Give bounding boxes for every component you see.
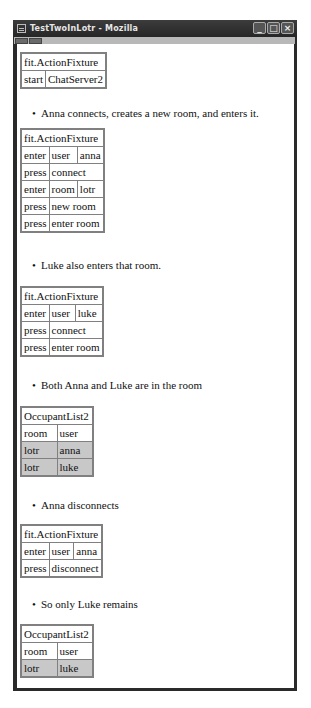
- fixture-header: fit.ActionFixture: [21, 53, 106, 71]
- table-cell: enter: [21, 543, 49, 560]
- table-cell: enter: [21, 147, 49, 164]
- table-cell: start: [21, 71, 45, 89]
- result-cell: lotr: [21, 660, 57, 678]
- fixture-table-anna-disconnects: fit.ActionFixture enter user anna press …: [20, 524, 103, 578]
- table-cell: user: [49, 147, 77, 164]
- table-cell: press: [21, 215, 49, 233]
- fixture-table-luke-enters: fit.ActionFixture enter user luke press …: [20, 286, 104, 357]
- result-cell: luke: [57, 459, 93, 477]
- table-cell: press: [21, 560, 49, 578]
- bullet-text: Both Anna and Luke are in the room: [17, 378, 202, 392]
- result-cell: lotr: [21, 459, 57, 477]
- fixture-header: OccupantList2: [21, 625, 93, 643]
- bullet-text: Luke also enters that room.: [17, 258, 161, 272]
- fixture-header: OccupantList2: [21, 407, 93, 425]
- table-cell: user: [49, 305, 75, 322]
- table-cell: lotr: [77, 181, 103, 198]
- bullet-text: Anna disconnects: [17, 498, 119, 512]
- result-cell: lotr: [21, 442, 57, 459]
- table-cell: connect: [49, 164, 104, 181]
- toolbar-button-2[interactable]: [29, 38, 42, 44]
- title-bar[interactable]: TestTwoInLotr - Mozilla _ □ ×: [13, 20, 297, 37]
- occupant-list-table-luke-only: OccupantList2 room user lotr luke: [20, 624, 94, 678]
- table-cell: enter room: [49, 215, 104, 233]
- minimize-button[interactable]: _: [253, 22, 266, 34]
- table-cell: press: [21, 198, 49, 215]
- window-controls: _ □ ×: [253, 22, 294, 34]
- column-header-user: user: [57, 643, 93, 660]
- bullet-text: So only Luke remains: [17, 597, 138, 611]
- table-cell: press: [21, 164, 49, 181]
- result-cell: luke: [57, 660, 93, 678]
- close-button[interactable]: ×: [281, 22, 294, 34]
- maximize-button[interactable]: □: [267, 22, 280, 34]
- bullet-text: Anna connects, creates a new room, and e…: [17, 106, 259, 120]
- table-cell: enter: [21, 305, 49, 322]
- column-header-room: room: [21, 425, 57, 442]
- table-cell: new room: [49, 198, 104, 215]
- page-content: fit.ActionFixture start ChatServer2 Anna…: [17, 44, 294, 688]
- fixture-table-start: fit.ActionFixture start ChatServer2: [20, 52, 107, 89]
- result-cell: anna: [57, 442, 93, 459]
- table-cell: user: [49, 543, 74, 560]
- table-cell: press: [21, 322, 49, 339]
- window-title: TestTwoInLotr - Mozilla: [30, 24, 138, 33]
- table-cell: enter room: [49, 339, 102, 357]
- fixture-header: fit.ActionFixture: [21, 129, 104, 147]
- table-cell: luke: [75, 305, 102, 322]
- column-header-room: room: [21, 643, 57, 660]
- fixture-table-anna-enters: fit.ActionFixture enter user anna press …: [20, 128, 105, 233]
- browser-window: TestTwoInLotr - Mozilla _ □ × fit.Action…: [13, 20, 297, 691]
- table-cell: press: [21, 339, 49, 357]
- fixture-header: fit.ActionFixture: [21, 287, 103, 305]
- table-cell: enter: [21, 181, 49, 198]
- toolbar-strip: [14, 37, 295, 44]
- table-cell: anna: [77, 147, 103, 164]
- table-cell: ChatServer2: [45, 71, 105, 89]
- window-icon: [17, 24, 26, 33]
- table-cell: disconnect: [49, 560, 102, 578]
- occupant-list-table-both: OccupantList2 room user lotr anna lotr l…: [20, 406, 94, 477]
- toolbar-button-1[interactable]: [15, 38, 28, 44]
- table-cell: room: [49, 181, 77, 198]
- fixture-header: fit.ActionFixture: [21, 525, 102, 543]
- table-cell: connect: [49, 322, 102, 339]
- table-cell: anna: [74, 543, 102, 560]
- column-header-user: user: [57, 425, 93, 442]
